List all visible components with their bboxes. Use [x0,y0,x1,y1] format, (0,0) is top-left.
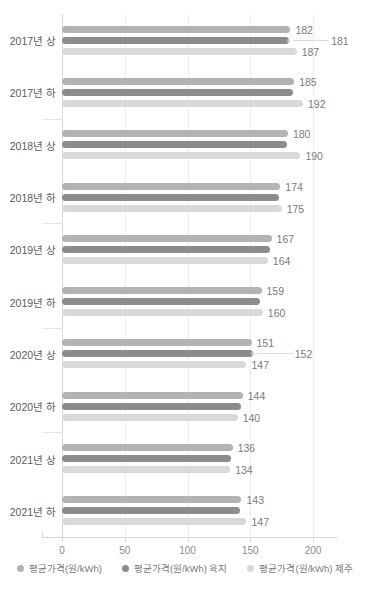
bar[interactable] [62,414,238,421]
bar-value-label: 143 [246,494,264,506]
x-tick-label: 150 [230,545,270,556]
category-label: 2021년 하 [0,504,56,519]
bar-group: 2018년 하174175 [0,171,370,223]
x-tick-mark [62,537,63,542]
bar[interactable] [62,518,246,525]
bar-value-label: 175 [287,203,305,215]
category-label: 2019년 하 [0,295,56,310]
category-label: 2017년 상 [0,33,56,48]
legend-item[interactable]: 평균가격(원/kWh) [17,561,102,575]
category-label: 2019년 상 [0,242,56,257]
bar-value-label: 144 [248,390,266,402]
bar-value-label: 140 [243,412,261,424]
legend-color-swatch-icon [122,565,129,572]
bar-group: 2017년 상182181187 [0,14,370,66]
bar[interactable] [62,246,270,253]
bar[interactable] [62,257,268,264]
bar-value-label: 151 [257,337,275,349]
legend-color-swatch-icon [17,565,24,572]
group-separator [42,328,63,329]
category-label: 2018년 상 [0,138,56,153]
bar-group: 2021년 상136134 [0,432,370,484]
bar-value-label: 174 [285,181,303,193]
bar-value-label: 167 [277,233,295,245]
bar-value-label: 160 [268,307,286,319]
bar-group: 2020년 상151152147 [0,328,370,380]
group-separator [42,223,63,224]
legend-label: 평균가격(원/kWh) 육지 [134,561,228,575]
bar-value-label: 152 [295,348,313,360]
bar-value-label: 181 [331,35,349,47]
bar[interactable] [62,194,279,201]
bar[interactable] [62,455,231,462]
category-label: 2020년 하 [0,399,56,414]
bar[interactable] [62,507,240,514]
bar[interactable] [62,183,280,190]
category-label: 2018년 하 [0,190,56,205]
category-label: 2017년 하 [0,85,56,100]
bar[interactable] [62,26,290,33]
bar[interactable] [62,100,303,107]
bar[interactable] [62,89,293,96]
legend-color-swatch-icon [247,565,254,572]
group-separator [42,119,63,120]
bar[interactable] [62,235,272,242]
bar[interactable] [62,403,241,410]
x-tick-mark [313,537,314,542]
label-leader-line [293,40,329,41]
legend-label: 평균가격(원/kWh) 제주 [259,561,353,575]
bar-group: 2019년 하159160 [0,276,370,328]
bar[interactable] [62,466,230,473]
bar[interactable] [62,392,243,399]
group-separator [42,432,63,433]
bar[interactable] [62,37,289,44]
bar[interactable] [62,444,233,451]
x-tick-label: 50 [105,545,145,556]
label-leader-dot [287,39,290,42]
bar[interactable] [62,350,253,357]
bar[interactable] [62,339,252,346]
x-tick-label: 200 [293,545,333,556]
bar[interactable] [62,130,288,137]
bar[interactable] [62,496,241,503]
chart-legend: 평균가격(원/kWh)평균가격(원/kWh) 육지평균가격(원/kWh) 제주 [0,561,370,575]
bar-chart: 050100150200 2017년 상1821811872017년 하1851… [0,0,370,590]
bar[interactable] [62,361,246,368]
bar-group: 2017년 하185192 [0,66,370,118]
bar-value-label: 147 [251,359,269,371]
bar[interactable] [62,141,287,148]
bar-group: 2018년 상180190 [0,119,370,171]
category-label: 2020년 상 [0,347,56,362]
bar-group: 2020년 하144140 [0,380,370,432]
bar[interactable] [62,78,294,85]
chart-title [0,0,370,7]
legend-item[interactable]: 평균가격(원/kWh) 육지 [122,561,228,575]
bar-value-label: 185 [299,76,317,88]
bar[interactable] [62,205,282,212]
label-leader-line [257,353,293,354]
legend-item[interactable]: 평균가격(원/kWh) 제주 [247,561,353,575]
bar-value-label: 180 [293,128,311,140]
legend-label: 평균가격(원/kWh) [29,561,102,575]
bar-value-label: 164 [273,255,291,267]
x-tick-mark [250,537,251,542]
x-tick-mark [188,537,189,542]
x-tick-label: 100 [168,545,208,556]
bar-value-label: 136 [238,442,256,454]
x-tick-label: 0 [42,545,82,556]
bar[interactable] [62,48,297,55]
bar-group: 2019년 상167164 [0,223,370,275]
bar-value-label: 192 [308,98,326,110]
bar[interactable] [62,152,300,159]
bar-value-label: 147 [251,516,269,528]
x-axis-line [42,537,337,538]
bar-value-label: 134 [235,464,253,476]
bar-value-label: 187 [302,46,320,58]
bar-value-label: 159 [267,285,285,297]
category-label: 2021년 상 [0,452,56,467]
bar[interactable] [62,287,262,294]
bar[interactable] [62,298,260,305]
bar[interactable] [62,309,263,316]
bar-value-label: 190 [305,150,323,162]
bar-value-label: 182 [295,24,313,36]
